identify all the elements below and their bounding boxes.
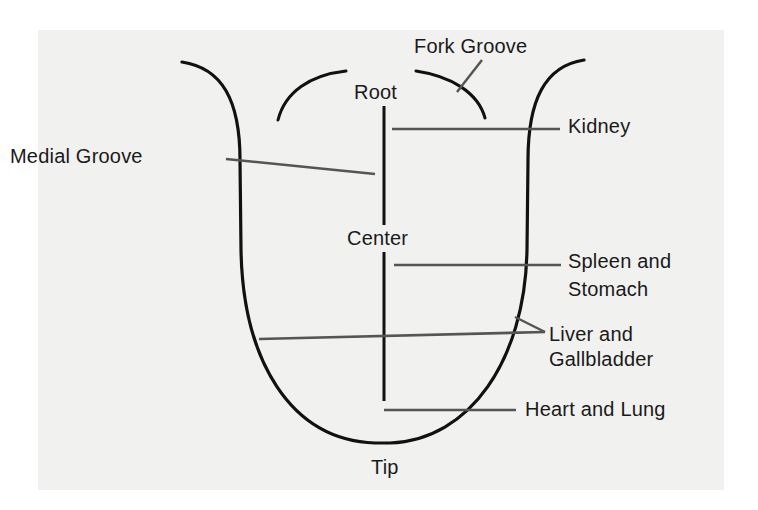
label-medial-groove: Medial Groove [10,144,143,169]
label-spleen-stomach-line1: Spleen and [568,249,671,274]
label-kidney: Kidney [568,114,630,139]
label-fork-groove: Fork Groove [414,34,527,59]
label-liver-gallbladder-line2: Gallbladder [549,347,654,372]
liver-gallbladder-leader-a [259,332,545,339]
liver-gallbladder-leader-b [515,317,545,332]
label-center: Center [347,226,408,251]
fork-groove-left-arc [278,71,346,120]
label-spleen-stomach-line2: Stomach [568,277,648,302]
medial-groove-leader [226,159,375,174]
label-root: Root [354,80,397,105]
label-liver-gallbladder-line1: Liver and [549,322,633,347]
label-tip: Tip [371,455,399,480]
fork-groove-right-arc [416,71,485,118]
label-heart-lung: Heart and Lung [525,397,666,422]
fork-groove-leader [457,60,482,92]
